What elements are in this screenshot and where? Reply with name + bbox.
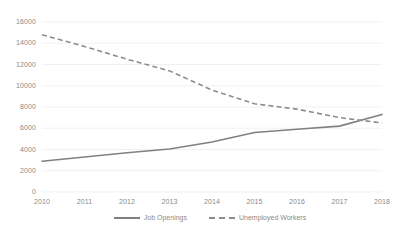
- legend-item-job-openings[interactable]: Job Openings: [114, 214, 187, 221]
- line-chart: 0200040006000800010000120001400016000 20…: [0, 0, 420, 242]
- y-tick-label: 16000: [2, 18, 36, 25]
- legend-label: Unemployed Workers: [239, 214, 306, 221]
- series-line-unemployed-workers: [42, 35, 382, 123]
- y-tick-label: 8000: [2, 103, 36, 110]
- y-tick-label: 0: [2, 188, 36, 195]
- legend-item-unemployed-workers[interactable]: Unemployed Workers: [209, 214, 306, 221]
- x-tick-label: 2012: [107, 198, 147, 205]
- gridlines: [42, 22, 382, 192]
- x-tick-label: 2010: [22, 198, 62, 205]
- x-tick-label: 2018: [362, 198, 402, 205]
- legend-swatch-solid-line-icon: [114, 217, 140, 219]
- series-line-job-openings: [42, 114, 382, 161]
- legend-label: Job Openings: [144, 214, 187, 221]
- x-tick-label: 2015: [235, 198, 275, 205]
- legend-swatch-dashed-line-icon: [209, 217, 235, 219]
- y-tick-label: 4000: [2, 146, 36, 153]
- x-tick-label: 2014: [192, 198, 232, 205]
- series-group: [42, 35, 382, 161]
- x-tick-label: 2013: [150, 198, 190, 205]
- x-tick-label: 2011: [65, 198, 105, 205]
- x-tick-label: 2016: [277, 198, 317, 205]
- y-tick-label: 2000: [2, 167, 36, 174]
- plot-svg: [42, 22, 382, 192]
- y-tick-label: 10000: [2, 82, 36, 89]
- plot-area: [42, 22, 382, 192]
- chart-legend: Job OpeningsUnemployed Workers: [0, 214, 420, 221]
- y-tick-label: 12000: [2, 61, 36, 68]
- y-tick-label: 14000: [2, 39, 36, 46]
- y-tick-label: 6000: [2, 124, 36, 131]
- x-tick-label: 2017: [320, 198, 360, 205]
